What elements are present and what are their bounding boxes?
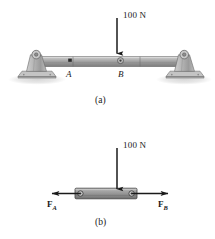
caption-a: (a) <box>95 96 106 106</box>
point-a-marker <box>68 59 72 62</box>
statics-figure: 100 N A B (a) 100 N FA FB (b) <box>0 0 215 239</box>
left-pin-support <box>18 50 56 78</box>
point-label-b: B <box>118 70 124 79</box>
left-support-shadow <box>8 74 66 84</box>
force-b-label: FB <box>158 200 168 211</box>
caption-b: (b) <box>95 218 106 228</box>
panel-b-graphics <box>52 148 168 199</box>
load-label-b: 100 N <box>123 141 146 150</box>
figure-graphics <box>0 0 215 239</box>
right-pin-support <box>166 50 204 78</box>
load-label-a: 100 N <box>123 11 146 20</box>
force-a-subscript: A <box>53 204 57 211</box>
beam <box>33 57 182 67</box>
panel-a-graphics <box>8 18 212 85</box>
force-a-label: FA <box>47 200 57 211</box>
force-b-subscript: B <box>164 204 168 211</box>
right-support-shadow <box>156 74 212 84</box>
point-b-marker <box>118 58 124 64</box>
two-force-member <box>75 188 137 199</box>
point-label-a: A <box>66 70 72 79</box>
